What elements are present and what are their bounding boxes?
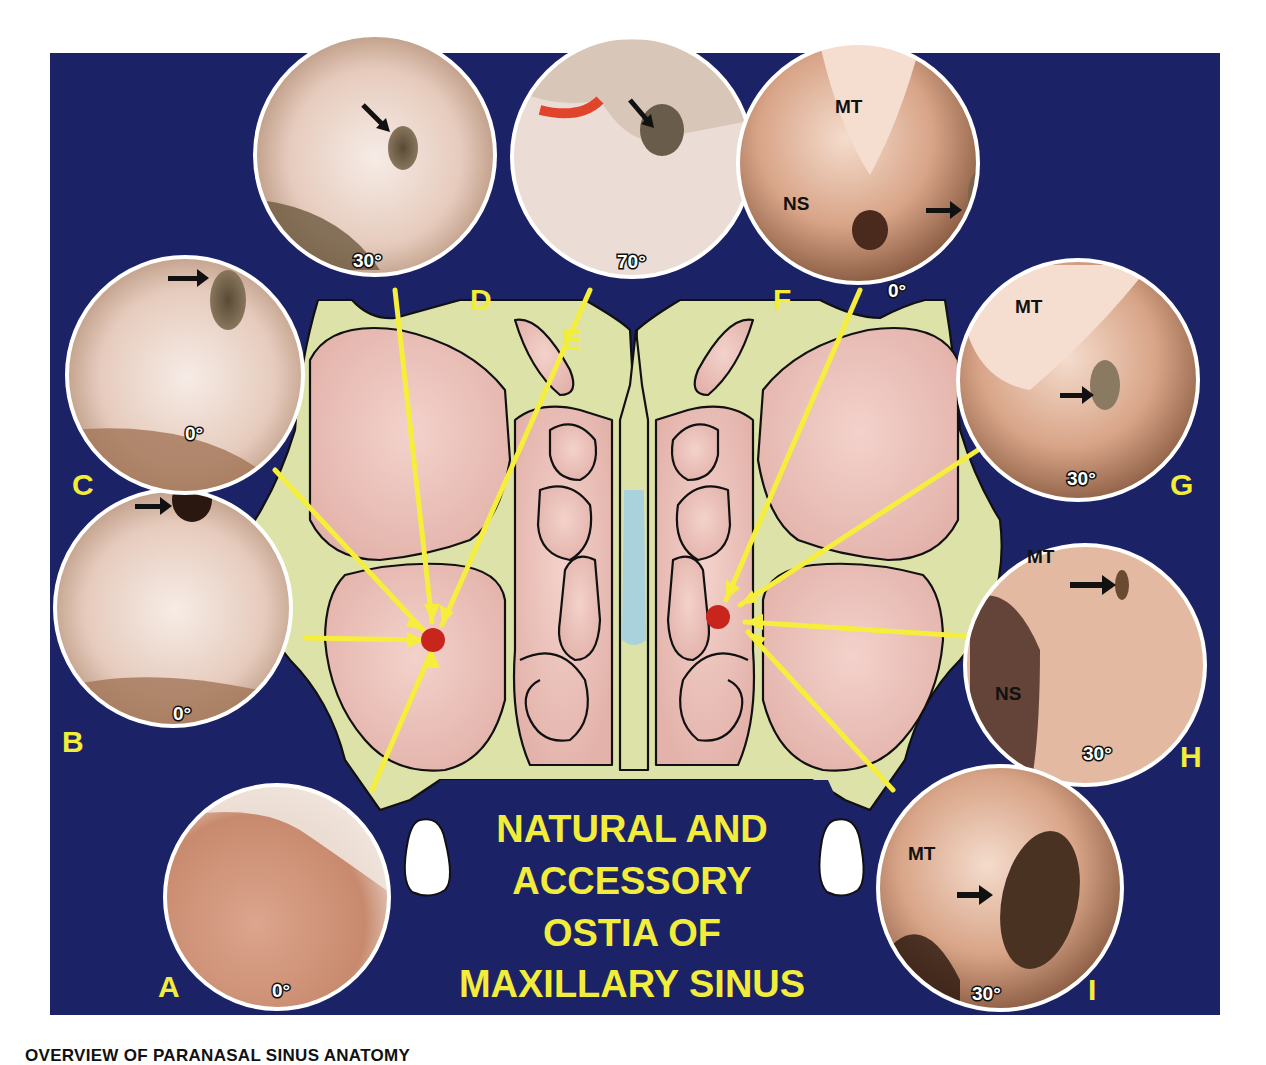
label-F-NS: NS	[783, 193, 809, 214]
angle-A: 0°	[272, 980, 290, 1001]
panel-E	[510, 35, 755, 280]
angle-C: 0°	[185, 423, 203, 444]
panel-letter-C: C	[72, 468, 94, 501]
tooth-left	[405, 819, 450, 895]
panel-letter-H: H	[1180, 740, 1202, 773]
label-H-MT: MT	[1027, 546, 1055, 567]
panel-letter-F: F	[773, 283, 791, 316]
angle-B: 0°	[173, 703, 191, 724]
angle-H: 30°	[1083, 743, 1112, 764]
panel-D	[255, 35, 495, 280]
panel-letter-E: E	[562, 323, 582, 356]
label-F-MT: MT	[835, 96, 863, 117]
angle-E: 70°	[617, 251, 646, 272]
septal-cartilage	[622, 490, 646, 645]
angle-D: 30°	[353, 250, 382, 271]
panel-letter-G: G	[1170, 468, 1193, 501]
title-line-2: ACCESSORY	[512, 860, 751, 902]
title-line-1: NATURAL AND	[496, 808, 768, 850]
angle-G: 30°	[1067, 468, 1096, 489]
panel-letter-B: B	[62, 725, 84, 758]
angle-I: 30°	[972, 983, 1001, 1004]
angle-F: 0°	[888, 280, 906, 301]
title-line-3: OSTIA OF	[543, 912, 721, 954]
panel-letter-I: I	[1088, 973, 1096, 1006]
panel-letter-D: D	[470, 283, 492, 316]
title-line-4: MAXILLARY SINUS	[459, 963, 805, 1005]
figure-caption: OVERVIEW OF PARANASAL SINUS ANATOMY	[25, 1046, 410, 1065]
coronal-sinus-diagram	[252, 300, 1002, 815]
label-H-NS: NS	[995, 683, 1021, 704]
tooth-right	[819, 819, 863, 895]
ostium-marker-right	[706, 605, 730, 629]
ostium-marker-left	[421, 628, 445, 652]
panel-letter-A: A	[158, 970, 180, 1003]
label-G-MT: MT	[1015, 296, 1043, 317]
label-I-MT: MT	[908, 843, 936, 864]
